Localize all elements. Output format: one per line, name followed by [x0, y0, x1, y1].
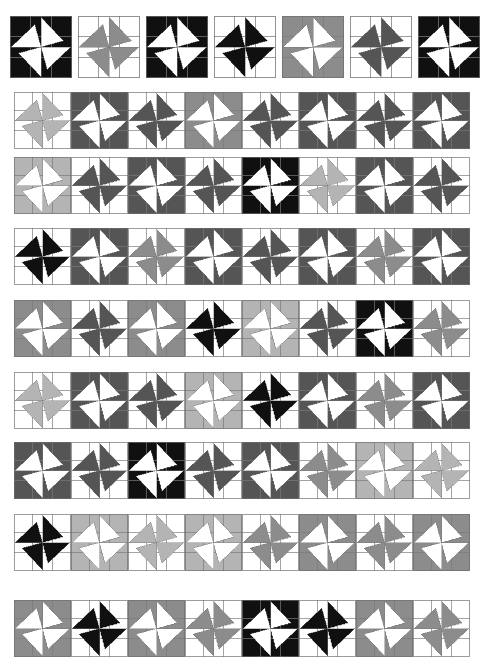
- quilt-tile: [413, 228, 470, 285]
- quilt-tile: [128, 92, 185, 149]
- quilt-row-9: [14, 600, 470, 657]
- quilt-tile: [128, 228, 185, 285]
- quilt-tile: [413, 442, 470, 499]
- quilt-figure: [0, 0, 484, 669]
- quilt-tile: [128, 600, 185, 657]
- quilt-tile: [71, 228, 128, 285]
- quilt-tile: [299, 372, 356, 429]
- quilt-tile: [418, 16, 480, 78]
- quilt-tile: [14, 157, 71, 214]
- quilt-tile: [185, 600, 242, 657]
- quilt-tile: [356, 157, 413, 214]
- quilt-tile: [128, 442, 185, 499]
- quilt-tile: [14, 92, 71, 149]
- quilt-tile: [128, 300, 185, 357]
- quilt-row-4: [14, 228, 470, 285]
- quilt-tile: [128, 514, 185, 571]
- quilt-tile: [71, 300, 128, 357]
- quilt-tile: [299, 300, 356, 357]
- quilt-tile: [350, 16, 412, 78]
- quilt-tile: [299, 228, 356, 285]
- quilt-tile: [242, 600, 299, 657]
- quilt-tile: [356, 92, 413, 149]
- quilt-row-2: [14, 92, 470, 149]
- quilt-tile: [78, 16, 140, 78]
- quilt-tile: [299, 514, 356, 571]
- quilt-tile: [128, 157, 185, 214]
- quilt-tile: [185, 442, 242, 499]
- quilt-tile: [185, 514, 242, 571]
- quilt-tile: [71, 372, 128, 429]
- quilt-tile: [214, 16, 276, 78]
- quilt-tile: [185, 372, 242, 429]
- quilt-tile: [413, 300, 470, 357]
- quilt-tile: [128, 372, 185, 429]
- quilt-tile: [356, 300, 413, 357]
- quilt-tile: [242, 372, 299, 429]
- quilt-tile: [146, 16, 208, 78]
- quilt-tile: [185, 228, 242, 285]
- quilt-tile: [356, 442, 413, 499]
- quilt-tile: [413, 600, 470, 657]
- quilt-tile: [299, 157, 356, 214]
- quilt-tile: [10, 16, 72, 78]
- quilt-tile: [71, 600, 128, 657]
- quilt-tile: [185, 92, 242, 149]
- quilt-tile: [185, 300, 242, 357]
- quilt-tile: [242, 300, 299, 357]
- quilt-tile: [242, 157, 299, 214]
- quilt-tile: [71, 514, 128, 571]
- quilt-tile: [242, 92, 299, 149]
- quilt-tile: [71, 442, 128, 499]
- quilt-tile: [299, 92, 356, 149]
- quilt-tile: [413, 514, 470, 571]
- quilt-tile: [356, 372, 413, 429]
- quilt-tile: [413, 92, 470, 149]
- quilt-tile: [71, 92, 128, 149]
- quilt-tile: [356, 228, 413, 285]
- quilt-tile: [14, 514, 71, 571]
- quilt-row-8: [14, 514, 470, 571]
- quilt-row-3: [14, 157, 470, 214]
- quilt-tile: [14, 228, 71, 285]
- quilt-row-6: [14, 372, 470, 429]
- quilt-tile: [242, 442, 299, 499]
- quilt-tile: [71, 157, 128, 214]
- quilt-tile: [299, 600, 356, 657]
- quilt-tile: [14, 442, 71, 499]
- quilt-tile: [14, 300, 71, 357]
- quilt-row-7: [14, 442, 470, 499]
- quilt-tile: [356, 514, 413, 571]
- quilt-tile: [413, 157, 470, 214]
- quilt-tile: [14, 600, 71, 657]
- quilt-tile: [413, 372, 470, 429]
- quilt-tile: [299, 442, 356, 499]
- quilt-tile: [14, 372, 71, 429]
- quilt-tile: [242, 514, 299, 571]
- quilt-tile: [185, 157, 242, 214]
- quilt-tile: [282, 16, 344, 78]
- quilt-row-5: [14, 300, 470, 357]
- quilt-tile: [242, 228, 299, 285]
- quilt-tile: [356, 600, 413, 657]
- quilt-row-1: [10, 16, 480, 78]
